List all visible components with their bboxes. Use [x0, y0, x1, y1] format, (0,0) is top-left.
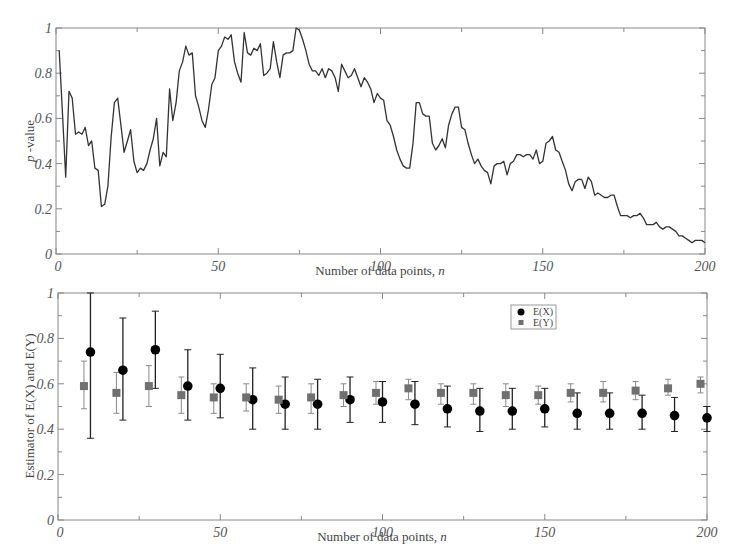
y-tick-label: 0.2: [35, 202, 53, 217]
data-markers: [80, 345, 712, 423]
bottom-tick-labels: 05010015020000.20.40.60.81: [37, 286, 718, 540]
y-tick-label: 0: [47, 513, 54, 528]
figure: 05010015020000.20.40.60.81 Number of dat…: [0, 0, 738, 557]
square-marker-icon: [372, 389, 380, 397]
y-tick-label: 0.8: [37, 331, 55, 346]
error-bars: [81, 293, 711, 438]
top-axis-ticks: [56, 28, 705, 254]
p-value-line: [59, 28, 705, 243]
legend-square-marker-icon: [519, 320, 524, 325]
x-tick-label: 200: [695, 259, 716, 274]
circle-marker-icon: [475, 406, 485, 416]
circle-marker-icon: [86, 347, 96, 357]
circle-marker-icon: [151, 345, 161, 355]
y-tick-label: 0: [45, 247, 52, 262]
circle-marker-icon: [605, 409, 615, 419]
square-marker-icon: [664, 384, 672, 392]
circle-marker-icon: [702, 413, 712, 423]
circle-marker-icon: [540, 404, 550, 414]
x-tick-label: 200: [697, 525, 718, 540]
y-tick-label: 1: [45, 21, 52, 36]
circle-marker-icon: [572, 409, 582, 419]
square-marker-icon: [145, 382, 153, 390]
bottom-plot: 05010015020000.20.40.60.81 Number of dat…: [22, 286, 718, 544]
square-marker-icon: [567, 389, 575, 397]
bottom-y-axis-title: Estimator of E(X) and E(Y): [22, 333, 37, 478]
square-marker-icon: [340, 391, 348, 399]
x-tick-label: 150: [534, 525, 555, 540]
y-tick-label: 0.4: [35, 157, 53, 172]
bottom-x-axis-title: Number of data points, n: [317, 529, 447, 544]
x-tick-label: 0: [57, 525, 64, 540]
circle-marker-icon: [410, 399, 420, 409]
top-y-axis-title: p -value: [22, 120, 37, 163]
square-marker-icon: [307, 393, 315, 401]
square-marker-icon: [242, 393, 250, 401]
circle-marker-icon: [215, 384, 225, 394]
x-tick-label: 150: [532, 259, 553, 274]
square-marker-icon: [275, 396, 283, 404]
y-tick-label: 1: [47, 286, 54, 301]
circle-marker-icon: [118, 365, 128, 375]
square-marker-icon: [80, 382, 88, 390]
x-tick-label: 0: [55, 259, 62, 274]
top-plot: 05010015020000.20.40.60.81 Number of dat…: [22, 21, 716, 278]
square-marker-icon: [469, 389, 477, 397]
square-marker-icon: [697, 380, 705, 388]
circle-marker-icon: [378, 397, 388, 407]
circle-marker-icon: [183, 381, 193, 391]
legend-circle-marker-icon: [518, 309, 525, 316]
square-marker-icon: [632, 387, 640, 395]
y-tick-label: 0.8: [35, 66, 53, 81]
square-marker-icon: [210, 393, 218, 401]
square-marker-icon: [534, 391, 542, 399]
square-marker-icon: [437, 389, 445, 397]
top-x-axis-title: Number of data points, n: [315, 263, 445, 278]
square-marker-icon: [599, 389, 607, 397]
circle-marker-icon: [443, 404, 453, 414]
x-tick-label: 50: [211, 259, 225, 274]
legend-label-ey: E(Y): [533, 317, 553, 329]
circle-marker-icon: [637, 409, 647, 419]
circle-marker-icon: [670, 411, 680, 421]
y-tick-label: 0.6: [37, 377, 55, 392]
square-marker-icon: [112, 389, 120, 397]
top-plot-frame: [56, 28, 705, 254]
y-tick-label: 0.2: [37, 468, 55, 483]
square-marker-icon: [404, 384, 412, 392]
square-marker-icon: [502, 391, 510, 399]
x-tick-label: 50: [213, 525, 227, 540]
square-marker-icon: [177, 391, 185, 399]
y-tick-label: 0.6: [35, 111, 53, 126]
circle-marker-icon: [508, 406, 518, 416]
top-tick-labels: 05010015020000.20.40.60.81: [35, 21, 716, 274]
y-tick-label: 0.4: [37, 422, 55, 437]
legend: E(X) E(Y): [511, 305, 556, 329]
